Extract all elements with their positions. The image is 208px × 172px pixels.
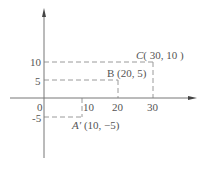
coordinate-plane bbox=[0, 0, 208, 172]
point-label-b: B (20, 5) bbox=[107, 68, 146, 79]
x-tick-label-0: 0 bbox=[37, 102, 43, 113]
point-coords-c: ( 30, 10 ) bbox=[143, 49, 183, 61]
point-name-b: B bbox=[107, 67, 114, 79]
point-coords-b: (20, 5) bbox=[117, 67, 146, 79]
point-coords-a-prime: (10, −5) bbox=[84, 119, 120, 131]
point-label-c: C( 30, 10 ) bbox=[136, 50, 184, 61]
guide-lines-b bbox=[44, 80, 118, 98]
y-tick-label-neg5: -5 bbox=[32, 113, 41, 124]
y-axis-arrow-icon bbox=[42, 8, 46, 17]
y-tick-label-5: 5 bbox=[35, 76, 41, 87]
x-axis-arrow-icon bbox=[188, 96, 197, 100]
x-tick-label-10: 10 bbox=[83, 102, 94, 113]
x-tick-label-20: 20 bbox=[112, 102, 123, 113]
x-tick-label-30: 30 bbox=[147, 102, 158, 113]
guide-lines-a-prime bbox=[44, 98, 82, 117]
point-label-a-prime: A′ (10, −5) bbox=[72, 120, 119, 131]
y-tick-label-10: 10 bbox=[30, 57, 41, 68]
point-name-a-prime: A′ bbox=[72, 119, 81, 131]
